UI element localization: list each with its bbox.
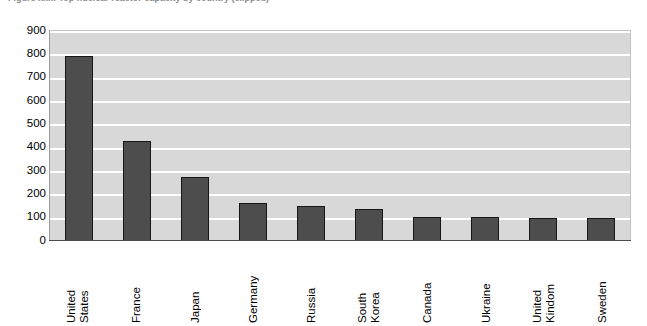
x-axis-label-slot: Ukraine — [456, 243, 514, 326]
x-axis-label-slot: Sweden — [573, 243, 631, 326]
y-axis-tick-label: 100 — [2, 211, 46, 223]
y-axis-tick-label: 800 — [2, 48, 46, 60]
x-axis-tick-label-line: South — [356, 243, 369, 323]
x-axis-tick-label: UnitedStates — [65, 243, 91, 323]
bar[interactable] — [297, 206, 325, 241]
x-axis: UnitedStatesFranceJapanGermanyRussiaSout… — [49, 243, 631, 326]
bar-slot — [340, 31, 398, 241]
y-axis-tick-label: 200 — [2, 188, 46, 200]
bars-layer — [50, 31, 630, 241]
bar[interactable] — [65, 56, 93, 242]
plot-area — [49, 30, 631, 241]
bar[interactable] — [181, 177, 209, 241]
x-axis-label-slot: Russia — [282, 243, 340, 326]
bar[interactable] — [123, 141, 151, 241]
x-axis-tick-label-line: United — [531, 243, 544, 323]
bar-slot — [282, 31, 340, 241]
bar-slot — [456, 31, 514, 241]
x-axis-tick-label: Sweden — [595, 243, 608, 323]
x-axis-tick-label-line: Korea — [369, 243, 382, 323]
x-axis-tick-label: Canada — [421, 243, 434, 323]
bar-slot — [108, 31, 166, 241]
x-axis-tick-label-line: Ukraine — [479, 243, 492, 323]
bar-chart-figure: Figure xxx: Top nuclear reactor capacity… — [0, 0, 647, 326]
x-axis-label-slot: Germany — [224, 243, 282, 326]
x-axis-baseline — [49, 240, 631, 241]
y-axis-tick-label: 700 — [2, 71, 46, 83]
x-axis-tick-label-line: France — [130, 243, 143, 323]
x-axis-label-slot: Japan — [165, 243, 223, 326]
y-axis-tick-label: 500 — [2, 118, 46, 130]
x-axis-tick-label-line: States — [78, 243, 91, 323]
bar-slot — [514, 31, 572, 241]
bar[interactable] — [529, 218, 557, 241]
x-axis-tick-label: UnitedKindom — [531, 243, 557, 323]
bar-slot — [398, 31, 456, 241]
bar-slot — [224, 31, 282, 241]
y-axis-tick-label: 0 — [2, 235, 46, 247]
x-axis-tick-label: Japan — [188, 243, 201, 323]
x-axis-tick-label-line: Sweden — [595, 243, 608, 323]
x-axis-tick-label-line: Russia — [304, 243, 317, 323]
bar[interactable] — [413, 217, 441, 241]
bar[interactable] — [355, 209, 383, 241]
y-axis: 9008007006005004003002001000 — [0, 24, 46, 248]
bar[interactable] — [471, 217, 499, 241]
bar[interactable] — [239, 203, 267, 242]
x-axis-tick-label: SouthKorea — [356, 243, 382, 323]
x-axis-tick-label-line: United — [65, 243, 78, 323]
bar-slot — [50, 31, 108, 241]
x-axis-label-slot: France — [107, 243, 165, 326]
x-axis-label-slot: SouthKorea — [340, 243, 398, 326]
x-axis-label-slot: Canada — [398, 243, 456, 326]
y-axis-tick-label: 300 — [2, 165, 46, 177]
x-axis-tick-label: France — [130, 243, 143, 323]
x-axis-tick-label: Ukraine — [479, 243, 492, 323]
x-axis-label-slot: UnitedKindom — [515, 243, 573, 326]
x-axis-tick-label: Germany — [246, 243, 259, 323]
x-axis-tick-label-line: Kindom — [544, 243, 557, 323]
bar[interactable] — [587, 218, 615, 241]
x-axis-tick-label-line: Japan — [188, 243, 201, 323]
y-axis-tick-label: 900 — [2, 25, 46, 37]
bar-slot — [572, 31, 630, 241]
x-axis-tick-label-line: Canada — [421, 243, 434, 323]
y-axis-tick-label: 600 — [2, 95, 46, 107]
figure-caption: Figure xxx: Top nuclear reactor capacity… — [8, 0, 639, 4]
x-axis-tick-label-line: Germany — [246, 243, 259, 323]
x-axis-label-slot: UnitedStates — [49, 243, 107, 326]
x-axis-tick-label: Russia — [304, 243, 317, 323]
bar-slot — [166, 31, 224, 241]
y-axis-tick-label: 400 — [2, 141, 46, 153]
